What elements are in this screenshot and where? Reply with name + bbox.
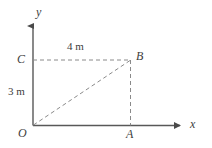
point-label-a: A — [126, 128, 133, 140]
y-axis-label: y — [36, 6, 41, 18]
diagram-canvas — [0, 0, 212, 148]
dimension-label-vertical: 3 m — [8, 86, 25, 97]
point-label-b: B — [136, 50, 143, 62]
point-label-origin: O — [18, 127, 27, 139]
coordinate-diagram: y x O A B C 4 m 3 m — [0, 0, 212, 148]
point-label-c: C — [17, 53, 25, 65]
dimension-label-horizontal: 4 m — [67, 41, 84, 52]
segment-o-to-b — [34, 61, 131, 126]
x-axis-label: x — [190, 118, 195, 130]
